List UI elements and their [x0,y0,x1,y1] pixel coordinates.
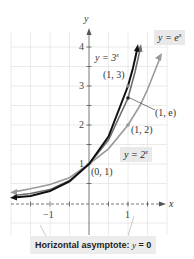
x-tick-1: 1 [125,210,130,220]
y-tick-1: 1 [79,159,84,169]
label-e-to-x: y = ex [154,30,185,45]
point-1-e: (1, e) [155,108,176,118]
point-1-2: (1, 2) [131,125,153,135]
y-axis-arrow-icon [87,28,92,35]
x-axis-arrow-icon [159,202,166,207]
y-tick-3: 3 [79,81,84,91]
y-tick-2: 2 [79,120,84,130]
x-axis-label: x [169,199,173,209]
label-3-to-x: y = 3x [95,52,119,63]
label-2-to-x: y = 2x [120,147,152,162]
asymptote-label: Horizontal asymptote: y = 0 [30,236,156,254]
point-0-1: (0, 1) [91,167,113,177]
x-tick-neg1: −1 [43,210,54,220]
y-axis-label: y [84,14,88,24]
y-tick-4: 4 [79,42,84,52]
point-1-3: (1, 3) [103,70,125,80]
